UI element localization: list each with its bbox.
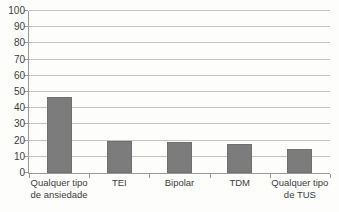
x-axis-labels: Qualquer tipo de ansiedadeTEIBipolarTDMQ… xyxy=(29,177,330,207)
gridline-30 xyxy=(29,123,330,124)
y-axis-label-20: 20 xyxy=(0,136,25,146)
y-axis-label-30: 30 xyxy=(0,119,25,129)
y-axis-label-80: 80 xyxy=(0,38,25,48)
y-axis-label-60: 60 xyxy=(0,71,25,81)
x-axis-line xyxy=(28,173,330,174)
gridline-90 xyxy=(29,26,330,27)
bar-2 xyxy=(107,141,132,173)
bar-4 xyxy=(227,144,252,173)
bar-3 xyxy=(167,142,192,173)
y-axis-label-50: 50 xyxy=(0,87,25,97)
y-axis-label-100: 100 xyxy=(0,6,25,16)
gridline-100 xyxy=(29,10,330,11)
x-axis-label-1: Qualquer tipo de ansiedade xyxy=(29,177,89,201)
y-axis-label-40: 40 xyxy=(0,103,25,113)
bar-1 xyxy=(47,97,72,173)
bar-chart-figure: 0102030405060708090100 Qualquer tipo de … xyxy=(0,0,339,212)
y-axis-labels: 0102030405060708090100 xyxy=(0,0,29,212)
y-axis-label-70: 70 xyxy=(0,55,25,65)
x-axis-label-5: Qualquer tipo de TUS xyxy=(270,177,330,201)
gridline-50 xyxy=(29,91,330,92)
bar-5 xyxy=(287,149,312,173)
x-tick-5 xyxy=(330,174,331,178)
gridline-40 xyxy=(29,107,330,108)
x-axis-label-2: TEI xyxy=(89,177,149,189)
y-axis-label-90: 90 xyxy=(0,22,25,32)
gridline-70 xyxy=(29,59,330,60)
gridline-20 xyxy=(29,140,330,141)
y-axis-label-0: 0 xyxy=(0,168,25,178)
gridline-60 xyxy=(29,75,330,76)
x-axis-label-3: Bipolar xyxy=(149,177,209,189)
y-axis-label-10: 10 xyxy=(0,152,25,162)
gridline-80 xyxy=(29,42,330,43)
plot-area xyxy=(29,11,330,173)
x-axis-label-4: TDM xyxy=(210,177,270,189)
